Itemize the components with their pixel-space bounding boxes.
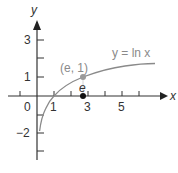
point-label-e-1: (e, 1): [60, 61, 88, 75]
point-label-e: e: [79, 81, 86, 95]
y-tick-label-neg2: −2: [16, 126, 30, 140]
x-tick-label-1: 1: [50, 100, 57, 114]
y-axis-label: y: [30, 3, 38, 17]
ln-graph: y x 0 1 3 5 3 1 −2 (e, 1) e y = ln x: [0, 0, 178, 173]
x-axis-arrow-icon: [160, 92, 168, 100]
y-axis-arrow-icon: [33, 20, 41, 30]
x-tick-label-3: 3: [84, 100, 91, 114]
x-tick-label-0: 0: [24, 100, 31, 114]
y-tick-label-3: 3: [24, 33, 31, 47]
ln-curve: [40, 64, 155, 132]
x-tick-label-5: 5: [118, 100, 125, 114]
curve-label: y = ln x: [112, 46, 150, 60]
y-tick-label-1: 1: [24, 70, 31, 84]
x-axis-label: x: [169, 89, 177, 103]
